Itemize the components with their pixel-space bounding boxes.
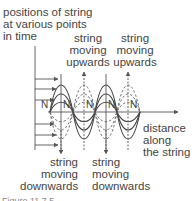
node-label: N (86, 99, 93, 111)
figure-caption: Figure 11.7.5 (2, 196, 54, 201)
node-label: N (130, 99, 137, 111)
node-label: N (41, 99, 48, 111)
node-label: N (108, 99, 115, 111)
wave-graphic (0, 0, 196, 201)
node-label: N (63, 99, 70, 111)
